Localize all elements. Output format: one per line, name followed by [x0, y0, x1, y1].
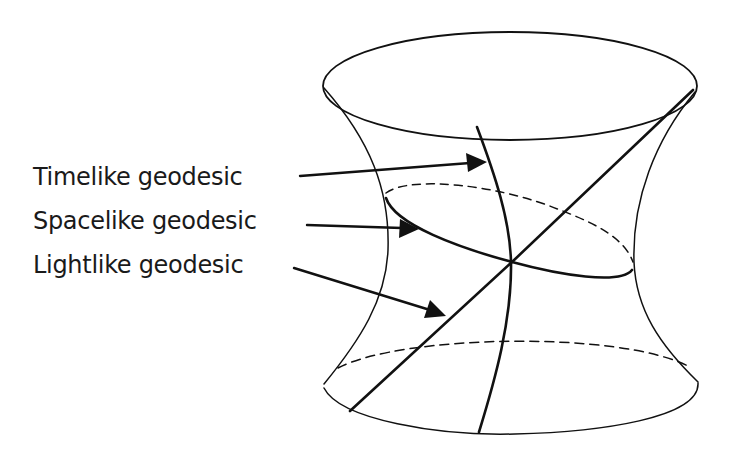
left-silhouette	[324, 88, 388, 384]
spacelike-label: Spacelike geodesic	[33, 209, 257, 233]
lightlike-pointer	[294, 268, 430, 310]
lightlike-label: Lightlike geodesic	[33, 253, 243, 277]
bottom-rim-back	[338, 341, 690, 368]
timelike-arrowhead-icon	[466, 153, 487, 172]
lightlike-geodesic	[350, 90, 693, 411]
lightlike-arrowhead-icon	[424, 300, 446, 318]
hyperboloid-diagram: Timelike geodesic Spacelike geodesic Lig…	[0, 0, 742, 458]
top-rim	[323, 32, 697, 140]
bottom-rim-front	[324, 383, 698, 434]
timelike-label: Timelike geodesic	[33, 165, 242, 189]
timelike-pointer	[300, 163, 470, 176]
